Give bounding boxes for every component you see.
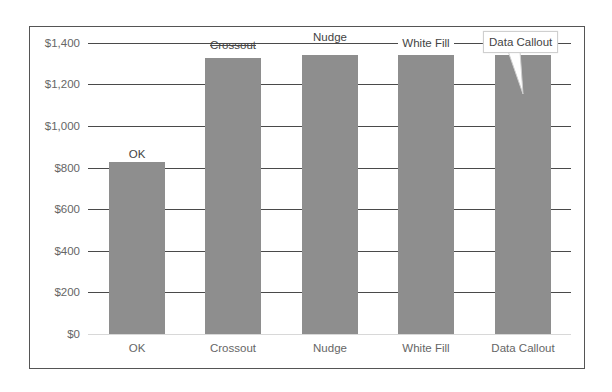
x-axis-category-label: Nudge: [280, 342, 380, 354]
bar-data-callout[interactable]: [495, 55, 551, 334]
x-axis-category-label: Crossout: [183, 342, 283, 354]
data-label-white-fill: White Fill: [376, 36, 476, 50]
data-label-callout: Data Callout: [483, 31, 558, 53]
y-axis-tick-label: $600: [30, 202, 80, 216]
y-axis-tick-label: $1,200: [30, 77, 80, 91]
bar-crossout[interactable]: [205, 58, 261, 334]
data-label-crossout-text: Crossout: [210, 39, 256, 51]
y-axis-tick-label: $0: [30, 327, 80, 341]
y-axis-tick-label: $400: [30, 244, 80, 258]
data-label-ok: OK: [87, 147, 187, 161]
bar-nudge[interactable]: [302, 55, 358, 334]
y-axis-tick-label: $1,000: [30, 119, 80, 133]
y-axis-tick-label: $200: [30, 285, 80, 299]
x-axis-category-label: Data Callout: [473, 342, 573, 354]
y-axis-tick-label: $1,400: [30, 36, 80, 50]
y-axis-tick-label: $800: [30, 161, 80, 175]
data-label-white-fill-text: White Fill: [398, 36, 453, 50]
x-axis-category-label: White Fill: [376, 342, 476, 354]
data-label-nudge: Nudge: [280, 30, 380, 44]
x-axis-category-label: OK: [87, 342, 187, 354]
x-axis-baseline: [88, 334, 571, 335]
bar-ok[interactable]: [109, 162, 165, 334]
data-label-crossout: Crossout: [183, 38, 283, 52]
bar-white-fill[interactable]: [398, 55, 454, 334]
